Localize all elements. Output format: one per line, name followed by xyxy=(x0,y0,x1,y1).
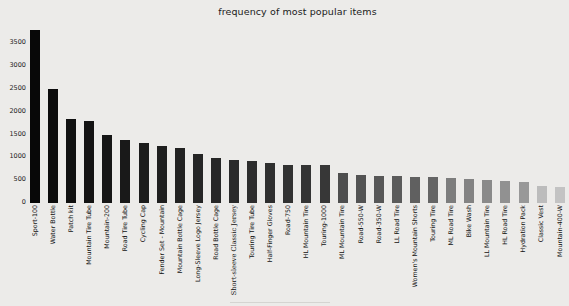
x-tick-label: Classic Vest xyxy=(538,205,544,242)
x-label-cell: Mountain Bottle Cage xyxy=(175,205,185,273)
x-tick-label: HL Mountain Tire xyxy=(303,205,309,258)
x-tick-label: Road-750 xyxy=(285,205,291,235)
x-label-cell: Touring Tire Tube xyxy=(247,205,257,258)
bar xyxy=(139,143,149,203)
x-label-cell: HL Mountain Tire xyxy=(301,205,311,258)
x-label-cell: Women's Mountain Shorts xyxy=(410,205,420,287)
bar xyxy=(338,173,348,203)
bar xyxy=(555,187,565,203)
bar xyxy=(265,163,275,203)
bar xyxy=(301,165,311,203)
x-tick-label: Long-Sleeve Logo Jersey xyxy=(195,205,201,282)
y-tick-label: 500 xyxy=(0,175,26,183)
plot-area xyxy=(30,25,565,203)
x-tick-label: LL Mountain Tire xyxy=(484,205,490,257)
x-label-cell: Touring-1000 xyxy=(320,205,330,246)
bar xyxy=(247,161,257,203)
x-label-cell: Classic Vest xyxy=(537,205,547,242)
x-label-cell: Sport-100 xyxy=(30,205,40,236)
x-tick-label: ML Road Tire xyxy=(448,205,454,245)
x-label-cell: Water Bottle xyxy=(48,205,58,244)
x-label-cell: Road-550-W xyxy=(356,205,366,243)
x-label-cell: Long-Sleeve Logo Jersey xyxy=(193,205,203,282)
bar xyxy=(66,119,76,203)
x-label-cell: Hydration Pack xyxy=(519,205,529,252)
x-label-cell: Mountain Tire Tube xyxy=(84,205,94,265)
x-label-cell: Road-750 xyxy=(283,205,293,235)
y-tick-label: 3000 xyxy=(0,61,26,69)
bar xyxy=(84,121,94,203)
x-tick-label: Cycling Cap xyxy=(140,205,146,242)
x-tick-label: LL Road Tire xyxy=(394,205,400,244)
bar xyxy=(229,160,239,203)
y-tick-label: 2000 xyxy=(0,107,26,115)
x-label-cell: Mountain-400-W xyxy=(555,205,565,257)
x-tick-label: Women's Mountain Shorts xyxy=(412,205,418,287)
bar xyxy=(175,148,185,203)
x-tick-label: Mountain-400-W xyxy=(557,205,563,257)
y-tick-label: 3500 xyxy=(0,38,26,46)
bar xyxy=(446,178,456,203)
x-tick-label: ML Mountain Tire xyxy=(339,205,345,259)
bar xyxy=(410,177,420,203)
x-tick-label: Touring Tire Tube xyxy=(249,205,255,258)
x-tick-label: Road Bottle Cage xyxy=(213,205,219,260)
bar xyxy=(428,177,438,203)
x-tick-label: Short-sleeve Classic Jersey xyxy=(231,205,238,295)
bar xyxy=(102,135,112,203)
bar xyxy=(537,186,547,203)
x-label-cell: Half-Finger Gloves xyxy=(265,205,275,262)
x-tick-label: Touring-1000 xyxy=(321,205,327,246)
x-tick-label: Water Bottle xyxy=(50,205,56,244)
x-axis-labels: Sport-100Water BottlePatch kitMountain T… xyxy=(30,205,565,301)
bar xyxy=(48,89,58,203)
chart-title: frequency of most popular items xyxy=(30,6,565,17)
y-tick-label: 1000 xyxy=(0,152,26,160)
x-tick-label: Road-550-W xyxy=(358,205,364,243)
bar xyxy=(193,154,203,203)
bar xyxy=(30,30,40,203)
x-label-cell: Cycling Cap xyxy=(139,205,149,242)
bar xyxy=(356,175,366,203)
x-label-cell: ML Road Tire xyxy=(446,205,456,245)
bar xyxy=(211,158,221,203)
x-label-cell: ML Mountain Tire xyxy=(338,205,348,259)
x-label-cell: Mountain-200 xyxy=(102,205,112,249)
x-tick-label: Mountain Bottle Cage xyxy=(177,205,183,273)
x-label-cell: Road Bottle Cage xyxy=(211,205,221,260)
bar xyxy=(392,176,402,203)
chart-figure: frequency of most popular items 05001000… xyxy=(0,0,569,306)
x-label-cell: HL Road Tire xyxy=(500,205,510,245)
y-tick-label: 2500 xyxy=(0,84,26,92)
x-label-cell: Fender Set - Mountain xyxy=(157,205,167,275)
bar xyxy=(374,176,384,203)
bar xyxy=(157,146,167,203)
x-tick-label: HL Road Tire xyxy=(502,205,508,245)
x-label-cell: Road Tire Tube xyxy=(120,205,130,251)
x-tick-label: Fender Set - Mountain xyxy=(159,205,165,275)
x-label-cell: Bike Wash xyxy=(464,205,474,237)
x-tick-label: Sport-100 xyxy=(32,205,38,236)
bar-series xyxy=(30,25,565,203)
y-tick-label: 0 xyxy=(0,198,26,206)
x-tick-label: Patch kit xyxy=(68,205,74,232)
bar xyxy=(283,165,293,203)
x-tick-label: Mountain Tire Tube xyxy=(86,205,92,265)
x-label-cell: Patch kit xyxy=(66,205,76,232)
x-tick-label: Road-350-W xyxy=(376,205,382,243)
cropped-caption-line xyxy=(230,302,330,303)
bar xyxy=(482,180,492,203)
x-tick-label: Mountain-200 xyxy=(104,205,110,249)
x-label-cell: LL Mountain Tire xyxy=(482,205,492,257)
x-label-cell: LL Road Tire xyxy=(392,205,402,244)
x-tick-label: Half-Finger Gloves xyxy=(267,205,273,262)
x-label-cell: Road-350-W xyxy=(374,205,384,243)
x-label-cell: Short-sleeve Classic Jersey xyxy=(229,205,239,295)
bar xyxy=(464,179,474,203)
x-tick-label: Hydration Pack xyxy=(520,205,526,252)
bar xyxy=(519,182,529,203)
x-label-cell: Touring Tire xyxy=(428,205,438,242)
y-tick-label: 1500 xyxy=(0,130,26,138)
x-tick-label: Touring Tire xyxy=(430,205,436,242)
bar xyxy=(120,140,130,203)
